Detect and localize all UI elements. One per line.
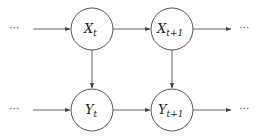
diagram-canvas: ··· ··· ··· ··· Xt Xt+1 Yt Yt+1	[0, 0, 264, 139]
ellipsis-top-right: ···	[239, 22, 250, 35]
node-x-t-plus-1: Xt+1	[151, 8, 193, 50]
ellipsis-bottom-right: ···	[239, 103, 250, 116]
ellipsis-top-left: ···	[9, 22, 20, 35]
node-y-t: Yt	[71, 89, 113, 131]
node-x-t: Xt	[71, 8, 113, 50]
node-y-t-plus-1: Yt+1	[151, 89, 193, 131]
ellipsis-bottom-left: ···	[9, 103, 20, 116]
